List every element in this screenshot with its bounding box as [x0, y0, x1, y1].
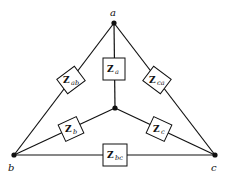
za-sub: a [115, 68, 119, 76]
zc-main: Z [153, 124, 160, 134]
impedance-zb: Z b [58, 117, 84, 142]
delta-wye-circuit-diagram: a b c Z a Z ab Z ca Z b Z c [0, 0, 235, 180]
zb-main: Z [65, 124, 72, 134]
node-center [112, 105, 117, 110]
impedance-zca: Z ca [142, 66, 171, 95]
zbc-main: Z [107, 150, 114, 160]
impedance-za: Z a [103, 58, 125, 80]
zb-sub: b [73, 128, 77, 136]
zab-main: Z [63, 75, 70, 85]
impedance-zbc: Z bc [103, 144, 127, 166]
zab-sub: ab [71, 79, 79, 87]
node-c [212, 152, 217, 157]
zca-main: Z [149, 75, 156, 85]
impedance-zc: Z c [146, 117, 172, 142]
node-a [111, 20, 116, 25]
impedance-zab: Z ab [57, 66, 86, 95]
label-a: a [110, 7, 116, 18]
zca-sub: ca [157, 79, 165, 87]
label-b: b [8, 162, 14, 173]
node-b [11, 152, 16, 157]
zbc-sub: bc [115, 154, 123, 162]
zc-sub: c [161, 128, 165, 136]
za-main: Z [107, 64, 114, 74]
label-c: c [211, 162, 217, 173]
